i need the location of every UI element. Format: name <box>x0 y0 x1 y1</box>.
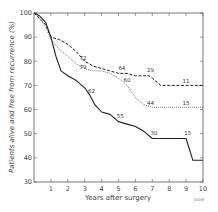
x-tick-label: 9 <box>184 185 188 193</box>
x-tick-label: 8 <box>167 185 171 193</box>
point-label-solid: 30 <box>150 130 157 136</box>
point-label-dashed: 11 <box>183 78 190 84</box>
x-tick-label: 5 <box>116 185 120 193</box>
figure-credit: 3318F <box>194 198 205 202</box>
point-label-dotted: 44 <box>147 100 154 106</box>
y-tick-label: 60 <box>24 106 32 114</box>
y-tick-label: 70 <box>24 82 32 90</box>
y-tick-label: 80 <box>24 58 32 66</box>
y-tick-label: 100 <box>20 9 32 17</box>
point-label-dotted: 15 <box>183 100 190 106</box>
chart-series <box>34 13 203 160</box>
x-tick-label: 10 <box>199 185 207 193</box>
series-line-dotted <box>34 13 203 107</box>
point-label-solid: 15 <box>184 130 191 136</box>
series-line-solid <box>34 13 203 160</box>
point-label-dashed: 72 <box>80 55 87 61</box>
chart-axes: 1234567891030405060708090100 <box>20 9 208 193</box>
x-tick-label: 3 <box>83 185 87 193</box>
x-tick-label: 6 <box>133 185 137 193</box>
point-label-solid: 62 <box>88 88 95 94</box>
point-label-dashed: 29 <box>147 67 154 73</box>
x-axis-title: Years after surgery <box>84 194 151 202</box>
x-tick-label: 4 <box>100 185 104 193</box>
y-tick-label: 40 <box>24 154 32 162</box>
y-tick-label: 50 <box>24 130 32 138</box>
plot-frame <box>34 13 203 182</box>
point-label-dashed: 64 <box>118 65 125 71</box>
point-label-solid: 55 <box>117 113 124 119</box>
point-label-dotted: 79 <box>80 64 87 70</box>
x-tick-label: 2 <box>66 185 70 193</box>
survival-chart: 1234567891030405060708090100 72642911796… <box>0 0 218 212</box>
y-axis-title: Patients alive and free from recurrence … <box>8 21 16 173</box>
x-tick-label: 7 <box>150 185 154 193</box>
y-tick-label: 30 <box>24 178 32 186</box>
y-tick-label: 90 <box>24 33 32 41</box>
point-label-dotted: 60 <box>123 77 130 83</box>
x-tick-label: 1 <box>49 185 53 193</box>
